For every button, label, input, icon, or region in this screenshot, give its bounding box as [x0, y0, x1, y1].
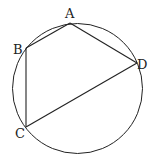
label-a: A	[64, 6, 75, 21]
label-d: D	[137, 57, 147, 72]
label-c: C	[15, 126, 25, 141]
circumscribed-circle	[13, 24, 143, 154]
segment-cd	[26, 63, 137, 127]
label-b: B	[13, 42, 23, 57]
inscribed-quadrilateral-diagram: A B C D	[0, 0, 155, 163]
segment-ab	[26, 23, 70, 48]
